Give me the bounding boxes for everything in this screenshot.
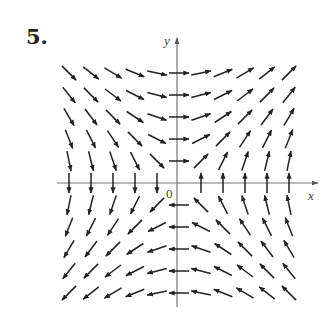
vector-arrow-icon [216,132,230,146]
vector-arrow-icon [87,130,96,148]
vector-arrow-icon [127,112,144,123]
vector-arrow-icon [67,195,71,215]
vector-arrow-icon [191,71,211,75]
vector-arrow-icon [62,66,76,80]
vector-arrow-icon [65,218,72,237]
vector-arrow-icon [237,89,253,101]
vector-arrow-icon [65,130,72,149]
vector-arrow-icon [192,223,210,232]
vector-arrow-icon [148,135,166,144]
vector-arrow-icon [110,196,116,215]
vector-arrow-icon [283,263,295,279]
vector-arrow-icon [191,291,211,295]
vector-arrow-icon [85,241,97,257]
vector-arrow-icon [131,152,140,170]
vector-arrow-icon [261,109,273,125]
vector-arrow-icon [216,220,230,234]
y-axis-label: y [162,33,170,48]
vector-arrow-icon [110,152,116,171]
vector-arrow-icon [89,151,94,170]
vector-arrow-icon [215,112,232,123]
vector-arrow-icon [214,69,233,76]
vector-arrow-icon [127,244,144,255]
vector-arrow-icon [64,108,74,125]
vector-arrow-icon [108,219,119,236]
vector-arrow-icon [104,288,121,298]
vector-arrow-icon [260,88,274,102]
vector-arrow-icon [284,108,294,125]
vector-arrow-icon [287,151,291,171]
vector-arrow-icon [192,114,211,120]
vector-arrow-icon [237,265,253,277]
vector-arrow-icon [147,93,166,98]
vector-arrow-icon [105,265,121,277]
vector-field-plot: x y 0 [0,0,328,317]
vector-arrow-icon [265,195,270,214]
vector-arrow-icon [84,88,98,102]
vector-arrow-icon [192,246,211,252]
x-axis-label: x [307,188,314,203]
vector-arrow-icon [104,68,121,78]
vector-arrow-icon [285,130,292,149]
vector-arrow-icon [148,223,166,232]
vector-arrow-icon [192,135,210,144]
vector-arrow-icon [236,68,253,78]
vector-arrow-icon [126,289,145,296]
vector-arrow-icon [85,109,97,125]
vector-arrow-icon [83,287,99,299]
vector-arrow-icon [67,151,71,171]
vector-arrow-icon [147,71,167,75]
vector-arrow-icon [84,264,98,278]
vector-arrow-icon [108,131,119,148]
vector-arrow-icon [87,218,96,236]
vector-arrow-icon [219,196,228,214]
vector-arrow-icon [106,110,120,124]
vector-arrow-icon [219,152,228,170]
vector-arrow-icon [148,246,167,252]
vector-arrow-icon [194,154,208,168]
vector-arrow-icon [62,286,76,300]
vector-arrow-icon [242,196,248,215]
vector-arrow-icon [287,195,291,215]
vector-arrow-icon [261,241,273,257]
vector-arrow-icon [126,267,144,276]
vector-arrow-icon [147,291,167,295]
vector-arrow-icon [283,87,295,103]
vector-arrow-icon [214,289,233,296]
vector-arrow-icon [106,242,120,256]
vector-arrow-icon [63,263,75,279]
vector-arrow-icon [126,69,145,76]
vector-arrow-icon [131,196,140,214]
vector-arrow-icon [236,288,253,298]
vector-arrow-icon [214,267,232,276]
vector-arrow-icon [259,287,275,299]
origin-label: 0 [166,186,173,201]
vector-arrow-icon [194,198,208,212]
vector-arrow-icon [148,114,167,120]
vector-arrow-icon [83,67,99,79]
vector-arrow-icon [128,132,142,146]
vector-arrow-icon [265,151,270,170]
vector-arrow-icon [285,218,292,237]
vector-arrow-icon [64,240,74,257]
vector-arrow-icon [260,264,274,278]
vector-arrow-icon [150,154,164,168]
vector-arrow-icon [259,67,275,79]
vector-arrow-icon [89,195,94,214]
vector-arrow-icon [238,110,252,124]
vector-arrow-icon [282,286,296,300]
vector-arrow-icon [240,131,251,148]
vector-arrow-icon [191,269,210,274]
vector-arrow-icon [150,198,164,212]
vector-arrow-icon [263,130,272,148]
vector-arrow-icon [147,269,166,274]
vector-arrow-icon [263,218,272,236]
vector-arrow-icon [191,93,210,98]
vector-arrow-icon [282,66,296,80]
vector-arrow-icon [105,89,121,101]
vector-arrow-icon [63,87,75,103]
vector-arrow-icon [240,219,251,236]
vector-arrow-icon [242,152,248,171]
vector-arrow-icon [214,91,232,100]
vector-arrow-icon [238,242,252,256]
